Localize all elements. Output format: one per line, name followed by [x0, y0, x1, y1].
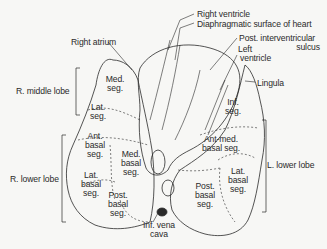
label-l-lower-lobe: L. lower lobe: [267, 161, 314, 170]
label-ventricle: ventricle: [240, 54, 271, 63]
label-inf-vena-cava: Inf. venacava: [136, 221, 182, 239]
seg-r-lat-basal: Lat.basalseg.: [76, 171, 106, 198]
seg-l-post-basal: Post.basalseg.: [190, 182, 220, 209]
label-r-lower-lobe: R. lower lobe: [10, 175, 59, 184]
label-r-middle-lobe: R. middle lobe: [16, 87, 70, 96]
vessel-lines: [150, 40, 228, 140]
label-right-ventricle: Right ventricle: [197, 10, 250, 19]
label-lingula: Lingula: [257, 79, 284, 88]
vena-cava-lower: [162, 180, 174, 196]
seg-l-lat-basal: Lat.basalseg.: [223, 167, 253, 194]
label-sulcus: sulcus: [270, 43, 320, 52]
seg-r-post-basal: Post.basalseg.: [103, 191, 133, 218]
r-middle-lobe-bracket: [76, 68, 80, 115]
seg-l-ant-med-basal: Ant-med.basal seg.: [196, 135, 246, 153]
l-lower-lobe-bracket: [262, 120, 266, 212]
seg-r-med-basal: Med.basalseg.: [116, 150, 146, 177]
seg-r-med: Med.seg.: [100, 75, 130, 93]
seg-l-inf: Inf.seg.: [221, 98, 245, 116]
seg-r-lat: Lat.seg.: [84, 103, 112, 121]
vena-cava-end: [157, 208, 167, 216]
r-lower-lobe-bracket: [62, 135, 66, 222]
seg-r-ant-basal: Ant.basalseg.: [80, 132, 110, 159]
label-diaphragmatic-surface: Diaphragmatic surface of heart: [197, 20, 312, 29]
label-right-atrium: Right atrium: [71, 38, 116, 47]
